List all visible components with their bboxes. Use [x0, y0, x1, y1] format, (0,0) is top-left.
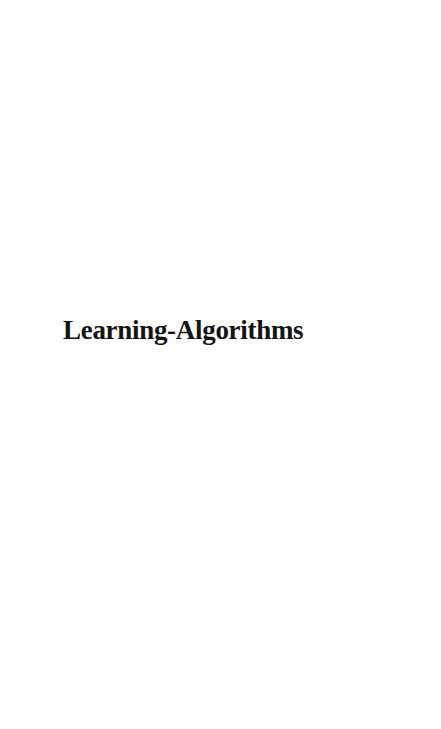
book-title-page: Learning-Algorithms: [0, 0, 441, 729]
page-title: Learning-Algorithms: [63, 314, 303, 346]
